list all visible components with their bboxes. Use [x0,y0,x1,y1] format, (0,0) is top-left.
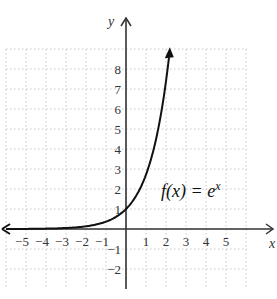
y-tick-labels: 87654321−1−2 [107,62,121,277]
x-tick-label: 3 [183,234,190,249]
x-tick-label: −3 [55,234,69,249]
x-tick-label: 1 [143,234,150,249]
x-tick-label: −5 [15,234,29,249]
exponential-graph: y x −5−4−3−2−112345 87654321−1−2 f(x) = … [0,0,277,299]
y-tick-label: 2 [115,182,122,197]
y-axis [121,18,131,289]
x-tick-labels: −5−4−3−2−112345 [15,234,229,249]
function-label: f(x) = ex [161,179,221,202]
y-tick-label: 5 [115,122,122,137]
y-tick-label: 4 [115,142,122,157]
y-tick-label: 7 [115,82,122,97]
y-tick-label: 6 [115,102,122,117]
x-tick-label: −4 [35,234,49,249]
x-axis-label: x [268,236,276,251]
y-tick-label: −2 [107,262,121,277]
x-tick-label: 4 [203,234,210,249]
y-tick-label: 8 [115,62,122,77]
x-tick-label: 2 [163,234,170,249]
y-tick-label: 3 [115,162,122,177]
exponential-curve [6,57,169,229]
x-tick-label: 5 [223,234,230,249]
x-tick-label: −2 [75,234,89,249]
y-tick-label: −1 [107,242,121,257]
y-axis-label: y [106,14,115,29]
